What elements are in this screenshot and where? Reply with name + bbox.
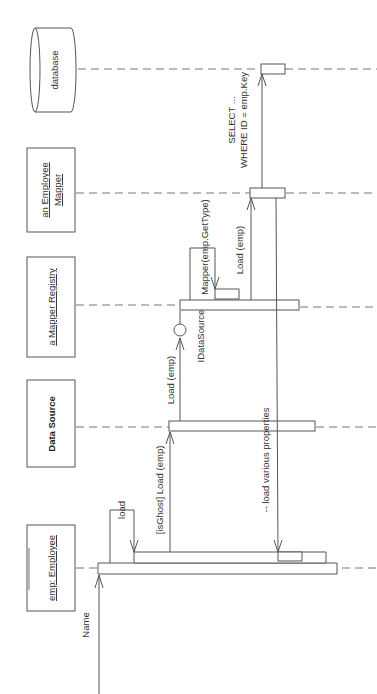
participant-mapper-label-line1: an Employee <box>39 162 50 217</box>
interface-lollipop-icon <box>174 324 186 336</box>
activation-mapper <box>250 188 285 198</box>
message-select: SELECT ... WHERE ID = emp.Key <box>226 72 266 188</box>
message-mapper-call-label: Mapper(emp.GetType) <box>199 199 210 295</box>
message-load-props-label: -- load various properties <box>260 407 271 512</box>
participant-registry-label: a Mapper Registry <box>46 268 57 346</box>
message-load-emp-1-label: Load (emp) <box>165 356 176 405</box>
interface-label: IDataSource <box>195 310 206 363</box>
participant-datasource-label: Data Source <box>46 396 57 451</box>
participant-datasource: Data Source <box>27 380 75 467</box>
activation-registry-mapper <box>215 289 239 299</box>
message-load-emp-2-label: Load (emp) <box>234 226 245 275</box>
activation-database <box>261 64 285 74</box>
message-isghost-load-label: [isGhost] Load (emp) <box>154 446 165 535</box>
message-name-label: Name <box>80 612 91 637</box>
activation-registry <box>180 300 299 310</box>
activation-employee-main <box>98 563 337 574</box>
participant-database-label: database <box>49 50 60 89</box>
message-isghost-load: [isGhost] Load (emp) <box>154 432 174 552</box>
message-mapper-call: Mapper(emp.GetType) <box>190 199 219 300</box>
message-load-emp-1: Load (emp) <box>165 311 186 421</box>
message-select-label-line1: SELECT ... <box>226 96 237 143</box>
participant-database: database <box>30 28 76 112</box>
participant-mapper: an Employee Mapper <box>27 148 75 232</box>
message-name: Name <box>80 575 103 694</box>
message-load-props: -- load various properties <box>260 198 282 552</box>
participant-employee: emp: Employee <box>27 525 75 611</box>
participant-employee-label: emp: Employee <box>46 535 57 601</box>
message-select-label-line2: WHERE ID = emp.Key <box>238 72 249 168</box>
message-load-emp-2: Load (emp) <box>234 198 255 300</box>
activation-datasource <box>169 421 315 431</box>
sequence-diagram: emp: Employee Data Source a Mapper Regis… <box>0 0 377 694</box>
participant-mapper-label-line2: Mapper <box>52 174 63 206</box>
activation-employee-props <box>278 552 302 561</box>
participant-registry: a Mapper Registry <box>27 257 75 357</box>
message-load-label: load <box>116 501 127 519</box>
